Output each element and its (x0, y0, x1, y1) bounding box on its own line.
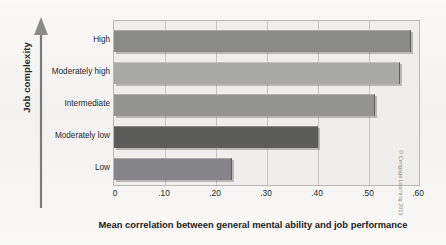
x-axis-tick-labels: 0 .10 .20 .30 .40 .50 .60 (113, 188, 420, 202)
y-category-label-high: High (48, 35, 110, 44)
y-axis-category-labels: High Moderately high Intermediate Modera… (48, 22, 110, 182)
up-arrow-icon (33, 16, 49, 208)
bar-low[interactable] (114, 158, 232, 180)
x-tick-0.20: .20 (209, 188, 221, 198)
bar-moderately-high[interactable] (114, 62, 400, 84)
y-axis-title: Job complexity (21, 8, 32, 148)
x-tick-0.10: .10 (158, 188, 170, 198)
bar-intermediate[interactable] (114, 94, 375, 116)
copyright-credit: © Cengage Learning 2013 (398, 150, 404, 240)
y-category-label-moderately-low: Moderately low (48, 131, 110, 140)
x-tick-0.60: .60 (412, 188, 424, 198)
x-tick-0.50: .50 (362, 188, 374, 198)
x-axis-title: Mean correlation between general mental … (80, 219, 426, 230)
y-category-label-low: Low (48, 163, 110, 172)
y-category-label-intermediate: Intermediate (48, 99, 110, 108)
figure-container: Job complexity High Moderately high Inte… (0, 0, 446, 245)
bar-moderately-low[interactable] (114, 126, 318, 148)
y-category-label-moderately-high: Moderately high (48, 67, 110, 76)
x-tick-0.30: .30 (260, 188, 272, 198)
plot-area (113, 20, 420, 186)
x-tick-0.40: .40 (311, 188, 323, 198)
bar-high[interactable] (114, 30, 411, 52)
x-tick-0: 0 (113, 188, 118, 198)
